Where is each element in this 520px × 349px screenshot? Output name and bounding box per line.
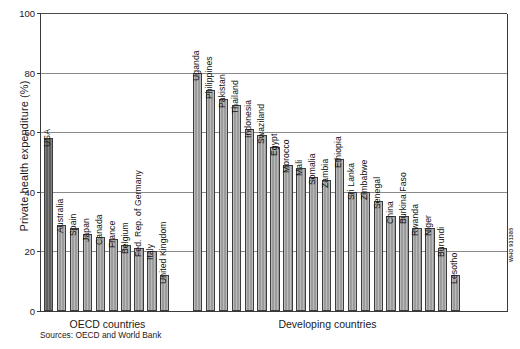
bar-label: Pakistan	[217, 74, 227, 108]
bar-label: Canada	[94, 214, 104, 245]
chart-root: Private health expenditure (%) 020406080…	[0, 0, 520, 349]
bar-label: China	[385, 201, 395, 224]
plot-area: 020406080100 USAAustraliaSpainJapanCanad…	[40, 14, 508, 312]
source-note: Sources: OECD and World Bank	[40, 330, 161, 340]
group-caption-developing: Developing countries	[278, 318, 376, 330]
y-axis-tick-80: 80	[9, 69, 35, 79]
bar-label: Zambia	[320, 159, 330, 188]
bar	[206, 90, 215, 311]
bar-label: Rwanda	[410, 204, 420, 236]
bar-label: Lesotho	[449, 252, 459, 283]
bar-label: Spain	[68, 214, 78, 236]
bar	[70, 228, 79, 311]
bar	[425, 228, 434, 311]
bar	[96, 237, 105, 312]
bar	[193, 73, 202, 311]
y-axis-tick-60: 60	[9, 128, 35, 138]
bar-label: Mali	[294, 160, 304, 176]
group-caption-oecd: OECD countries	[70, 318, 146, 330]
bar	[219, 99, 228, 311]
bar	[57, 225, 66, 311]
bar-label: Philippines	[204, 56, 214, 99]
bar	[232, 105, 241, 311]
bar	[270, 147, 279, 311]
bar	[134, 248, 143, 311]
bar	[322, 180, 331, 311]
y-axis-tick-40: 40	[9, 188, 35, 198]
bar	[83, 234, 92, 311]
bar-label: Thailand	[230, 80, 240, 114]
bar-label: Italy	[145, 244, 155, 260]
bar	[438, 248, 447, 311]
bar	[44, 138, 53, 311]
bar-label: Egypt	[269, 133, 279, 155]
bar	[361, 192, 370, 311]
bar-label: Swaziland	[256, 104, 266, 144]
bar	[296, 168, 305, 311]
bar-label: Somalia	[307, 154, 317, 186]
bar-label: Burundi	[436, 227, 446, 257]
bar-label: USA	[42, 129, 52, 147]
bar-label: United Kingdom	[158, 221, 168, 284]
bar	[374, 201, 383, 311]
bar	[257, 135, 266, 311]
bar-label: Burkina Faso	[398, 172, 408, 224]
bar-label: Ethiopia	[333, 136, 343, 168]
bar	[399, 216, 408, 311]
bar-label: Senegal	[372, 177, 382, 209]
bar-label: Zimbabwe	[359, 160, 369, 200]
bar	[245, 129, 254, 311]
bar-label: Sri Lanka	[346, 163, 356, 200]
bar	[412, 228, 421, 311]
bar	[348, 192, 357, 311]
bar-label: Japan	[81, 218, 91, 242]
y-axis-tick-0: 0	[9, 307, 35, 317]
bar	[335, 159, 344, 311]
y-axis-tick-100: 100	[9, 9, 35, 19]
bar	[309, 177, 318, 311]
bar	[147, 251, 156, 311]
bar-label: Morocco	[281, 140, 291, 174]
bars-layer: USAAustraliaSpainJapanCanadaFranceBelgiu…	[41, 14, 507, 311]
bar	[121, 245, 130, 311]
bar	[386, 216, 395, 311]
bar-label: Fed. Rep. of Germany	[133, 170, 143, 257]
watermark-code: WHO 931385	[508, 228, 514, 262]
bar	[109, 239, 118, 311]
bar-label: Belgium	[120, 222, 130, 254]
y-tick-mark-0	[37, 311, 41, 312]
y-axis-tick-20: 20	[9, 248, 35, 258]
bar-label: Indonesia	[243, 100, 253, 138]
bar	[283, 165, 292, 311]
bar-label: Niger	[423, 215, 433, 236]
bar-label: Australia	[55, 199, 65, 233]
bar-label: Uganda	[191, 50, 201, 81]
bar-label: France	[107, 221, 117, 248]
